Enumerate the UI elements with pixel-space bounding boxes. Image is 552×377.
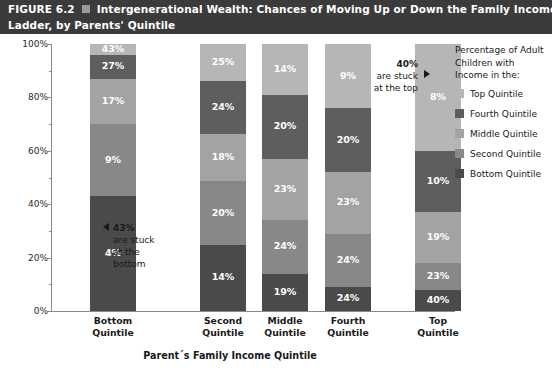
legend-item[interactable]: Second Quintile [455,149,552,159]
legend-color-swatch-icon [455,109,464,118]
y-axis-tick-label: 0% [34,306,48,316]
annotation-top-line3: at the top [374,83,418,93]
bar-segment-label: 24% [337,292,360,303]
bar-segment-label: 8% [430,91,446,102]
legend-item-label: Bottom Quintile [470,169,541,179]
legend-item-label: Middle Quintile [470,129,538,139]
y-axis-tick-label: 40% [28,199,48,209]
bar-segment-label: 24% [212,101,235,112]
annotation-bottom-lead: 43% [113,223,135,233]
annotation-top: 40% are stuck at the top [348,58,418,94]
bar-segment-label: 14% [274,63,297,74]
left-triangle-icon [103,223,109,231]
bar-segment[interactable]: 18% [200,134,246,182]
annotation-bottom-line3: at the [113,247,140,257]
x-axis-category-label-line2: Quintile [303,327,393,339]
bar-segment[interactable]: 23% [415,263,461,290]
legend-color-swatch-icon [455,129,464,138]
bar-segment[interactable]: 24% [200,81,246,134]
stacked-bar[interactable]: 14%20%23%24%19% [262,44,308,311]
y-axis-tick-label: 20% [28,253,48,263]
y-axis-tick-mark [47,151,52,152]
bar-segment-label: 27% [102,60,125,71]
bar-segment[interactable]: 24% [325,234,371,287]
bar-segment-label: 9% [105,154,121,165]
bar-segment-label: 20% [274,120,297,131]
bar-segment[interactable]: 19% [415,212,461,263]
x-axis-category-label-line1: Top [393,315,483,327]
bar-segment[interactable]: 25% [200,44,246,81]
y-axis-tick-mark [47,258,52,259]
figure-container: FIGURE 6.2 Intergenerational Wealth: Cha… [0,0,552,377]
figure-title-banner: FIGURE 6.2 Intergenerational Wealth: Cha… [0,0,552,34]
annotation-bottom-line4: bottom [113,259,146,269]
bar-segment[interactable]: 43% [90,44,136,55]
x-axis-title: Parent´s Family Income Quintile [0,350,460,361]
y-axis-minor-tick-mark [49,71,52,72]
bar-segment[interactable]: 27% [90,55,136,79]
stacked-bar[interactable]: 25%24%18%20%14% [200,44,246,311]
bar-segment-label: 19% [427,231,450,242]
bar-segment[interactable]: 17% [90,79,136,124]
legend-title: Percentage of Adult Children with Income… [455,44,552,82]
y-axis-tick-mark [47,97,52,98]
bar-segment[interactable]: 20% [262,95,308,159]
legend-title-line2: Children with [455,58,514,68]
bar-segment-label: 23% [337,196,360,207]
bar-segment-label: 20% [337,134,360,145]
figure-number: FIGURE 6.2 [8,1,75,17]
y-axis-tick-label: 100% [22,39,48,49]
legend: Percentage of Adult Children with Income… [455,44,552,189]
legend-item-label: Fourth Quintile [470,109,537,119]
y-axis-tick-mark [47,311,52,312]
x-axis-category-label-line2: Quintile [393,327,483,339]
bar-segment-label: 43% [102,43,125,54]
bar-segment[interactable]: 23% [262,159,308,220]
bar-segment-label: 19% [274,286,297,297]
bar-segment-label: 23% [274,183,297,194]
legend-item[interactable]: Bottom Quintile [455,169,552,179]
bar-segment-label: 40% [427,294,450,305]
legend-item-label: Top Quintile [470,89,523,99]
figure-title-row: FIGURE 6.2 Intergenerational Wealth: Cha… [8,1,544,17]
bar-segment-label: 20% [212,207,235,218]
x-axis-category-label: TopQuintile [393,315,483,338]
legend-color-swatch-icon [455,89,464,98]
y-axis-tick-label: 80% [28,92,48,102]
x-axis-category-label: FourthQuintile [303,315,393,338]
legend-items: Top QuintileFourth QuintileMiddle Quinti… [455,89,552,179]
annotation-top-line2: are stuck [377,71,419,81]
bar-segment[interactable]: 14% [262,44,308,95]
legend-item[interactable]: Fourth Quintile [455,109,552,119]
y-axis-tick-mark [47,204,52,205]
legend-color-swatch-icon [455,149,464,158]
bar-segment[interactable]: 40% [415,290,461,311]
x-axis-category-label-line1: Fourth [303,315,393,327]
square-marker-icon [82,5,90,13]
annotation-bottom: 43% are stuck at the bottom [113,222,191,270]
legend-item[interactable]: Top Quintile [455,89,552,99]
annotation-bottom-line2: are stuck [113,235,155,245]
bar-segment[interactable]: 20% [325,108,371,172]
bar-segment[interactable]: 24% [262,220,308,273]
bar-segment[interactable]: 19% [262,274,308,311]
x-axis-category-label: BottomQuintile [68,315,158,338]
stacked-bar[interactable]: 43%27%17%9%4% [90,44,136,311]
y-axis-minor-tick-mark [49,124,52,125]
bar-segment[interactable]: 23% [325,172,371,233]
y-axis-tick-label: 60% [28,146,48,156]
bar-segment-label: 23% [427,270,450,281]
legend-item[interactable]: Middle Quintile [455,129,552,139]
figure-title-line1: Intergenerational Wealth: Chances of Mov… [97,1,552,17]
x-axis-line [51,311,455,312]
bar-segment[interactable]: 14% [200,245,246,311]
right-triangle-icon [424,70,430,78]
bar-segment[interactable]: 9% [90,124,136,196]
bar-segment[interactable]: 24% [325,287,371,311]
bar-segment[interactable]: 20% [200,181,246,244]
legend-item-label: Second Quintile [470,149,541,159]
legend-title-line3: Income in the: [455,70,520,80]
x-axis-category-label-line2: Quintile [68,327,158,339]
y-axis-tick-mark [47,44,52,45]
bar-segment-label: 18% [212,151,235,162]
